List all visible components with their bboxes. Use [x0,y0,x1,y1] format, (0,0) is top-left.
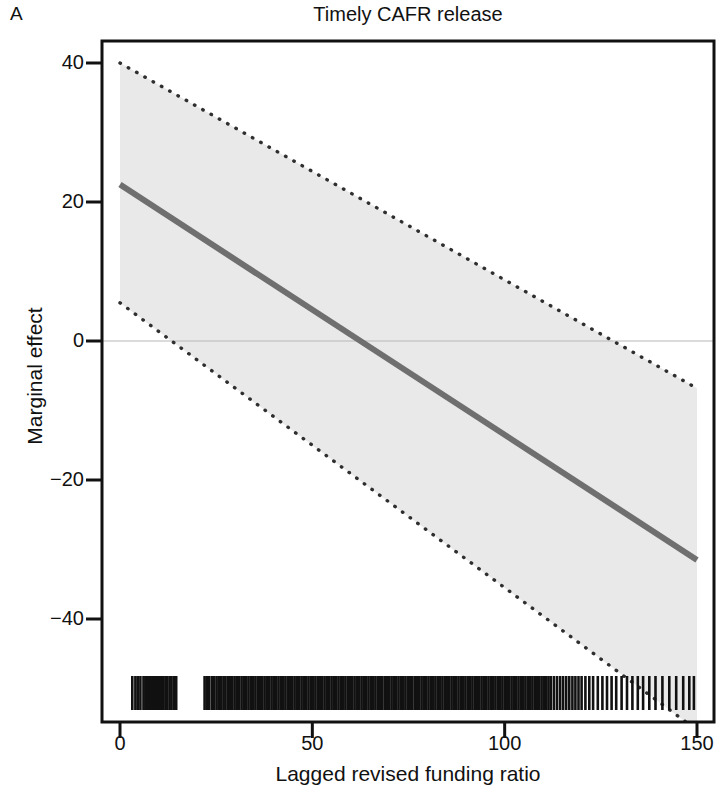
marginal-effect-plot [0,0,721,802]
x-axis-ticks [120,722,697,738]
y-axis-tick-label: −40 [14,608,84,628]
x-axis-tick-label: 0 [80,733,160,753]
x-axis-title: Lagged revised funding ratio [102,762,714,786]
x-axis-tick-label: 50 [272,733,352,753]
y-axis-tick-label: 40 [14,52,84,72]
chart-title: Timely CAFR release [102,3,714,25]
figure-panel-a: A Timely CAFR release 40200−20−40 050100… [0,0,721,802]
y-axis-tick-label: 20 [14,191,84,211]
x-axis-tick-label: 150 [657,733,721,753]
y-axis-title: Marginal effect [23,266,47,486]
x-axis-tick-label: 100 [465,733,545,753]
y-axis-tick-labels: 40200−20−40 [10,0,84,802]
y-axis-ticks [86,63,102,619]
